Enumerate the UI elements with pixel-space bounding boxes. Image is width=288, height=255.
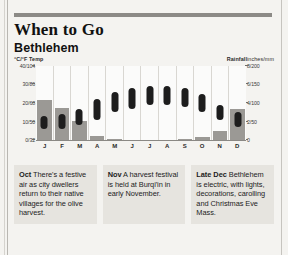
temperature-range-bar [164,86,171,105]
x-axis-label: F [54,141,72,152]
left-tickmark-4 [32,139,35,140]
chart-column [71,66,89,140]
left-tick-3: 10/50 [14,119,35,125]
x-axis-label: J [36,141,54,152]
page-edge-rule-outer [4,0,5,255]
chart-column [106,66,124,140]
left-tickmark-3 [32,121,35,122]
note-month: Oct [19,170,31,179]
x-axis-label: J [141,141,159,152]
left-tickmark-0 [32,65,35,66]
x-axis-labels: JFMAMJJASOND [36,141,246,152]
right-axis-title-main: Rainfall [227,56,247,62]
temperature-range-bar [234,112,241,127]
chart-column [229,66,246,140]
right-axis-title-unit: inches/mm [247,56,274,62]
note-card: Oct There's a festive air as city dwelle… [14,165,97,224]
chart-column [89,66,107,140]
chart-column [36,66,54,140]
left-tick-2: 20/68 [14,100,35,106]
climate-chart: °C/°F Temp Rainfallinches/mm 40/104 30/8… [14,56,274,152]
left-tickmark-1 [32,83,35,84]
chart-column [54,66,72,140]
x-axis-label: M [71,141,89,152]
temperature-range-bar [217,105,224,120]
left-tickmark-2 [32,102,35,103]
temperature-range-bar [111,92,118,112]
guidebook-page: When to Go Bethlehem °C/°F Temp Rainfall… [0,0,288,255]
temperature-range-bar [76,109,83,126]
note-month: Nov [108,170,122,179]
header-rule [14,13,272,17]
note-card: Late Dec Bethlehem is electric, with lig… [191,165,274,224]
rainfall-bar [213,131,228,140]
page-edge-rule-inner [7,0,8,255]
chart-column [194,66,212,140]
right-tick-0: 8/200 [247,63,259,69]
chart-column [159,66,177,140]
chart-column [177,66,195,140]
right-tick-1: 6/150 [247,81,259,87]
seasonal-notes: Oct There's a festive air as city dwelle… [14,165,274,224]
right-tick-2: 4/100 [247,100,259,106]
left-axis-title: °C/°F Temp [14,56,43,62]
temperature-range-bar [181,88,188,107]
plot-area [36,66,246,140]
x-axis-label: S [176,141,194,152]
temperature-range-bar [146,86,153,105]
left-tick-1: 30/86 [14,81,35,87]
x-axis-label: D [229,141,247,152]
chart-column [124,66,142,140]
left-tick-4: 0/32 [14,137,35,143]
temperature-range-bar [94,99,101,119]
x-axis-label: A [159,141,177,152]
x-axis-label: A [89,141,107,152]
page-subtitle: Bethlehem [14,41,79,55]
x-axis-label: M [106,141,124,152]
left-tick-0: 40/104 [14,63,35,69]
x-axis-label: J [124,141,142,152]
chart-columns [36,66,246,140]
x-axis-label: O [194,141,212,152]
temperature-range-bar [129,88,136,108]
temperature-range-bar [41,116,48,129]
temperature-range-bar [199,94,206,113]
right-tick-4: 0 [247,137,250,143]
x-axis-label: N [211,141,229,152]
page-title: When to Go [14,20,104,40]
chart-column [141,66,159,140]
note-month: Late Dec [196,170,226,179]
page-edge-rule-right [281,0,282,255]
note-card: Nov A harvest festival is held at Burqi'… [103,165,186,224]
chart-column [212,66,230,140]
right-tick-3: 2/50 [247,119,257,125]
temperature-range-bar [58,114,65,129]
right-axis-title: Rainfallinches/mm [227,56,274,62]
